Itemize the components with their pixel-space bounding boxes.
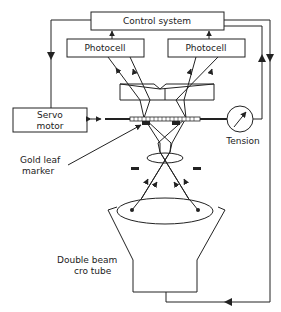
light-rays [108,57,218,214]
control-to-servo-arrowhead [47,52,55,60]
tension-label: Tension [225,136,260,146]
servo-label-line1: Servo [37,110,63,120]
photocell-left-box: Photocell [67,39,144,57]
aperture-right [193,167,201,170]
rod [105,117,227,121]
gold-leaf-label-line1: Gold leaf [20,155,61,165]
servo-motor-box: Servo motor [13,108,87,132]
control-to-cro-arrowhead-top [266,54,274,62]
servo-label-line2: motor [36,121,63,131]
tension-to-control-arrowhead [258,54,266,62]
control-to-cro-arrowhead-bottom [224,298,232,306]
cro-tube-label-line1: Double beam [57,255,117,265]
lower-lens [147,153,183,163]
gold-leaf-label-line2: marker [22,166,54,176]
gold-leaf-marker-right [172,121,180,125]
aperture-left [131,167,139,170]
control-system-label: Control system [123,16,191,26]
photocell-left-label: Photocell [84,43,125,53]
control-system-box: Control system [91,12,224,30]
control-to-cro-line [166,20,270,302]
cro-tube [108,198,225,292]
photocell-right-label: Photocell [185,43,226,53]
photocell-right-box: Photocell [168,39,245,57]
cro-tube-label-line2: cro tube [74,266,112,276]
control-to-servo-line [51,20,91,108]
diagram-canvas: Control system Photocell Photocell [0,0,281,312]
gold-leaf-marker-left [142,121,150,125]
tension-dial [227,106,253,132]
